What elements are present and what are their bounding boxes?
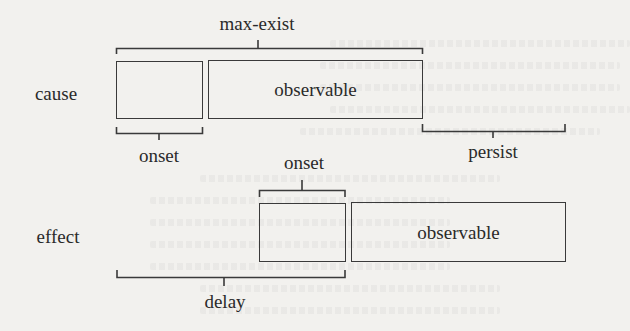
effect-onset-label: onset [284,153,324,172]
cause-onset-bracket [117,127,203,140]
max-exist-bracket [117,40,423,54]
cause-onset-box [116,61,203,119]
cause-observable-box: observable [208,60,423,119]
persist-bracket [423,124,566,138]
cause-onset-label: onset [139,146,179,165]
row-label-cause: cause [35,84,77,103]
effect-observable-label: observable [417,223,499,242]
persist-label: persist [468,142,518,161]
effect-observable-box: observable [351,202,566,262]
effect-onset-box [259,203,346,262]
max-exist-label: max-exist [220,14,295,33]
cause-observable-label: observable [274,80,356,99]
delay-label: delay [204,292,245,311]
delay-bracket [117,270,345,286]
row-label-effect: effect [37,227,80,246]
effect-onset-bracket [260,180,346,197]
